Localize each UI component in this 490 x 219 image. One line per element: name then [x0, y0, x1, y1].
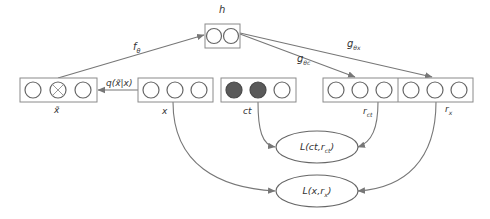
unit-ct-3 — [274, 82, 290, 98]
edge-label-g-theta-x: gθx — [347, 38, 361, 51]
architecture-diagram: fθ q(x̃|x) gθc gθx h x̃ x ct — [0, 0, 490, 219]
layer-label-h: h — [219, 4, 225, 15]
layer-label-r-ct: rct — [363, 106, 373, 118]
unit-x-tilde-3 — [75, 82, 91, 98]
loss-ct: L(ct,rct) — [276, 131, 358, 163]
layer-label-x-tilde: x̃ — [53, 105, 60, 115]
unit-x-1 — [143, 82, 159, 98]
loss-label-x: L(x,rx) — [303, 185, 332, 198]
loss-x: L(x,rx) — [276, 175, 358, 207]
layer-label-r-x: rx — [445, 104, 453, 116]
layer-label-x: x — [161, 106, 168, 116]
edge-label-g-theta-c: gθc — [297, 53, 311, 66]
layer-x-tilde: x̃ — [20, 78, 97, 115]
layer-reconstructions: rct rx — [323, 78, 473, 118]
unit-rct-1 — [328, 82, 344, 98]
edge-rct-to-loss-ct — [358, 102, 378, 147]
unit-rx-1 — [403, 82, 419, 98]
edge-label-q: q(x̃|x) — [106, 78, 132, 88]
unit-rx-2 — [427, 82, 443, 98]
edge-label-f-theta: fθ — [133, 41, 141, 55]
layer-x: x — [138, 78, 213, 116]
unit-ct-2-filled — [250, 82, 266, 98]
unit-rct-3 — [376, 82, 392, 98]
unit-rct-2 — [352, 82, 368, 98]
layer-label-ct: ct — [243, 106, 252, 116]
edge-f-theta — [58, 35, 204, 78]
unit-rx-3 — [451, 82, 467, 98]
unit-x-3 — [191, 82, 207, 98]
unit-ct-1-filled — [226, 82, 242, 98]
edge-ct-to-loss-ct — [258, 102, 275, 147]
unit-h-1 — [207, 29, 222, 44]
unit-x-tilde-1 — [25, 82, 41, 98]
edge-x-to-loss-x — [173, 102, 275, 191]
layer-h: h — [205, 4, 240, 48]
unit-h-2 — [224, 29, 239, 44]
unit-x-2 — [167, 82, 183, 98]
